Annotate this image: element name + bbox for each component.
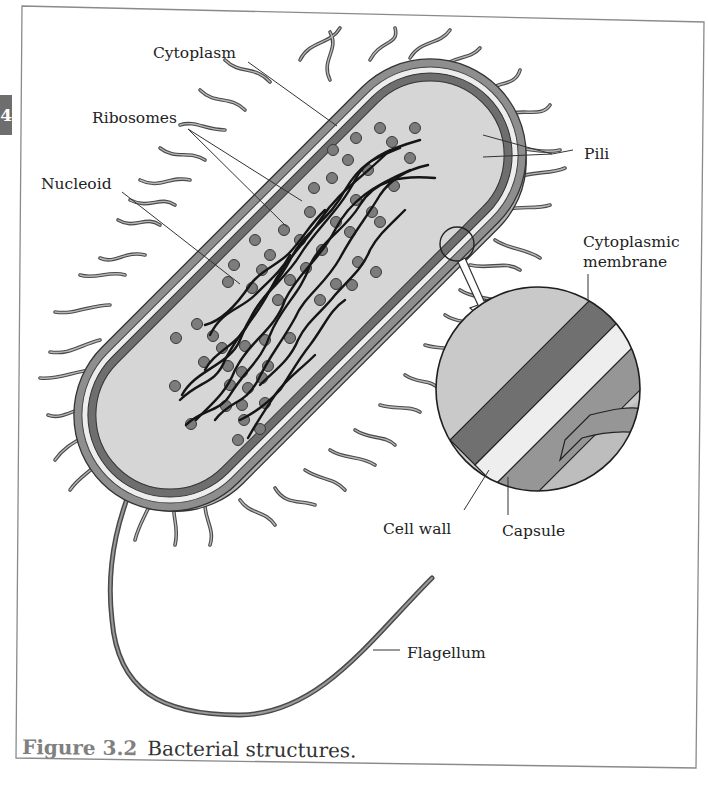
membrane-inset <box>430 270 690 510</box>
label-flagellum: Flagellum <box>407 644 486 662</box>
label-capsule: Capsule <box>502 522 565 540</box>
label-nucleoid: Nucleoid <box>41 175 112 193</box>
figure-caption: Figure 3.2Bacterial structures. <box>22 735 357 763</box>
figure-number: Figure 3.2 <box>22 735 138 760</box>
label-ribosomes: Ribosomes <box>92 109 177 127</box>
label-cell-wall: Cell wall <box>383 520 451 538</box>
label-cytoplasm: Cytoplasm <box>153 44 236 62</box>
label-cytoplasmic-membrane-1: Cytoplasmic <box>583 233 680 251</box>
label-cytoplasmic-membrane-2: membrane <box>583 253 667 271</box>
label-pili: Pili <box>584 145 609 163</box>
figure-title: Bacterial structures. <box>147 736 356 762</box>
